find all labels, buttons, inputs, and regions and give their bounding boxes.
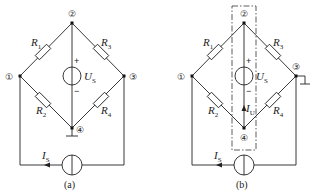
circuit-b: + − US IU IS ② ① ③ ④ R1 R3 R [177,6,310,191]
node-1-label: ① [177,72,185,82]
current-source-is: IS [213,149,254,175]
current-source-is: IS [41,149,82,175]
svg-text:+: + [74,56,79,66]
voltage-source-us: + − US [63,56,96,96]
caption-a: (a) [64,179,75,191]
voltage-source-us: + − US [235,56,268,96]
caption-b: (b) [236,179,248,191]
node-2-label: ② [240,9,248,19]
svg-text:−: − [74,86,79,96]
svg-text:IU: IU [245,102,255,117]
svg-text:+: + [246,56,251,66]
svg-text:−: − [246,86,251,96]
circuit-a: + − US IS ② ① ③ ④ R1 R3 R2 R4 (a) [5,9,137,191]
svg-text:US: US [84,70,96,85]
branch-current-iu: IU [242,102,255,117]
svg-text:IS: IS [213,149,222,164]
svg-text:R4: R4 [100,104,112,119]
node-2-label: ② [68,9,76,19]
node-3-label: ③ [292,62,300,72]
node-1-label: ① [5,72,13,82]
node-3-label: ③ [129,72,137,82]
svg-text:R1: R1 [202,36,214,51]
node-4-label: ④ [76,125,84,135]
ground-icon [296,76,310,84]
svg-text:R1: R1 [30,36,42,51]
svg-text:R4: R4 [272,104,284,119]
node-4-label: ④ [240,133,248,143]
svg-text:IS: IS [41,149,50,164]
svg-text:US: US [256,70,268,85]
